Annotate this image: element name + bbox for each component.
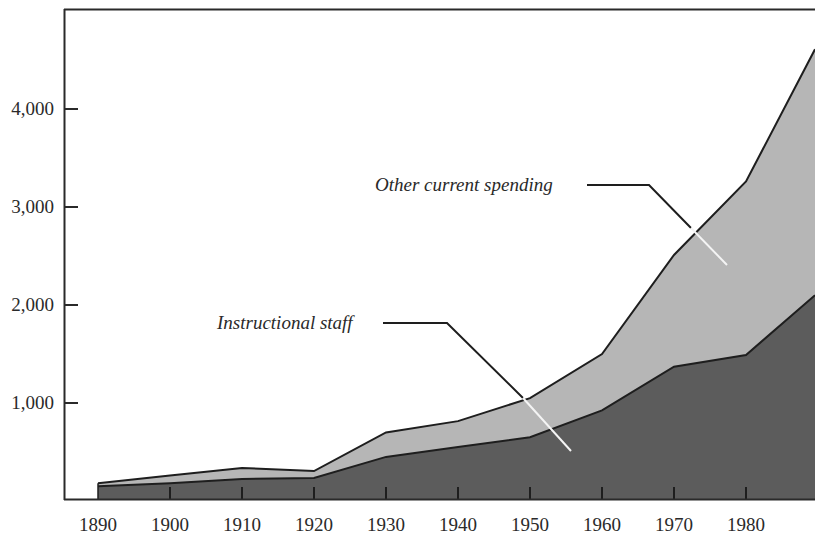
y-tick-label: 2,000	[11, 294, 54, 315]
y-tick-label: 3,000	[11, 196, 54, 217]
x-tick-label: 1980	[727, 514, 765, 535]
leader-other-spending	[587, 185, 691, 228]
x-tick-label: 1960	[583, 514, 621, 535]
stacked-area-chart: 1,0002,0003,0004,000 1890190019101920193…	[0, 0, 815, 552]
y-tick-label: 1,000	[11, 392, 54, 413]
annotation-other-spending: Other current spending	[375, 174, 553, 195]
x-axis-labels: 1890190019101920193019401950196019701980	[79, 514, 765, 535]
x-tick-label: 1910	[223, 514, 261, 535]
leader-instructional	[383, 323, 523, 398]
plot-areas	[98, 49, 815, 499]
annotation-instructional-staff: Instructional staff	[216, 312, 355, 333]
x-tick-label: 1930	[367, 514, 405, 535]
y-axis-ticks: 1,0002,0003,0004,000	[11, 98, 78, 413]
x-tick-label: 1940	[439, 514, 477, 535]
x-tick-label: 1920	[295, 514, 333, 535]
y-tick-label: 4,000	[11, 98, 54, 119]
x-tick-label: 1970	[655, 514, 693, 535]
x-tick-label: 1950	[511, 514, 549, 535]
x-tick-label: 1900	[151, 514, 189, 535]
x-tick-label: 1890	[79, 514, 117, 535]
